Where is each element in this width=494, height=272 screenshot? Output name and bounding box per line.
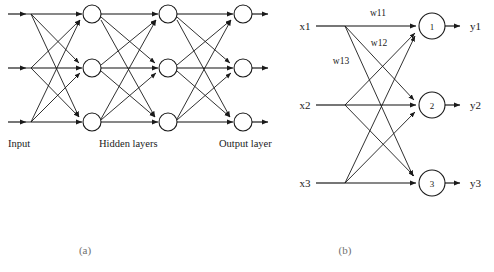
panel-b-weight-w11: w11 [370, 8, 386, 18]
neuron-2-label: 2 [430, 101, 435, 111]
panel-a-edges-input-h1 [31, 14, 82, 122]
panel-a-edges-h1-h2 [101, 14, 158, 122]
node-out-1 [234, 5, 252, 23]
node-h1-2 [83, 59, 101, 77]
node-out-2 [234, 59, 252, 77]
panel-b-output-arrows [445, 26, 460, 183]
panel-b-caption: (b) [339, 244, 352, 257]
panel-a-group: Input Hidden layers Output layer (a) [8, 5, 272, 257]
node-h2-3 [159, 113, 177, 131]
node-h1-1 [83, 5, 101, 23]
panel-a-edges-h2-out [177, 14, 233, 122]
panel-a-caption: (a) [79, 244, 92, 257]
panel-a-hidden1-nodes [83, 5, 101, 131]
panel-b-output-y3: y3 [470, 177, 482, 189]
panel-b-edges-x1 [345, 26, 416, 176]
neuron-1-label: 1 [430, 22, 435, 32]
network-figure-svg: Input Hidden layers Output layer (a) x1 … [0, 0, 494, 272]
node-h1-3 [83, 113, 101, 131]
panel-b-edges-x3 [345, 36, 416, 183]
figure-root: Input Hidden layers Output layer (a) x1 … [0, 0, 494, 272]
panel-b-input-x2: x2 [300, 99, 311, 111]
panel-b-output-y1: y1 [470, 20, 481, 32]
panel-b-input-leads [316, 26, 345, 183]
panel-a-output-nodes [234, 5, 252, 131]
node-h2-2 [159, 59, 177, 77]
panel-a-label-hidden: Hidden layers [99, 138, 158, 149]
panel-b-weight-w12: w12 [371, 38, 388, 48]
panel-b-group: x1 x2 x3 [300, 8, 482, 257]
panel-a-input-arrows [8, 14, 26, 122]
panel-b-output-y2: y2 [470, 99, 481, 111]
node-out-3 [234, 113, 252, 131]
neuron-3-label: 3 [430, 179, 435, 189]
panel-a-label-input: Input [8, 138, 30, 149]
panel-a-output-arrows [252, 14, 268, 122]
panel-b-edges-x2 [345, 33, 416, 176]
panel-a-label-output: Output layer [219, 138, 272, 149]
panel-b-weight-w13: w13 [333, 56, 350, 66]
panel-b-input-x3: x3 [300, 177, 312, 189]
node-h2-1 [159, 5, 177, 23]
panel-b-input-x1: x1 [300, 20, 311, 32]
panel-a-input-bus [26, 14, 31, 122]
panel-a-hidden2-nodes [159, 5, 177, 131]
